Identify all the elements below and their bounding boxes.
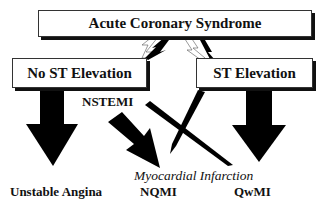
outcome-unstable-angina: Unstable Angina	[10, 184, 102, 200]
right-box-label: ST Elevation	[213, 65, 296, 82]
outcome-qwmi: QwMI	[234, 184, 271, 200]
myocardial-infarction-label: Myocardial Infarction	[134, 168, 253, 184]
acute-coronary-syndrome-box: Acute Coronary Syndrome	[38, 10, 312, 37]
nstemi-label: NSTEMI	[82, 94, 133, 110]
cross-needles	[145, 90, 233, 166]
arrow-qwmi	[232, 90, 286, 162]
outcome-nqmi: NQMI	[140, 184, 177, 200]
arrow-unstable-angina	[26, 90, 78, 166]
st-elevation-box: ST Elevation	[196, 58, 313, 88]
left-box-label: No ST Elevation	[27, 65, 132, 82]
connector-left	[142, 36, 172, 60]
no-st-elevation-box: No ST Elevation	[12, 58, 147, 88]
arrow-nqmi	[108, 112, 160, 168]
diagram-canvas: Acute Coronary Syndrome No ST Elevation …	[0, 0, 334, 213]
title-box-label: Acute Coronary Syndrome	[89, 15, 262, 32]
